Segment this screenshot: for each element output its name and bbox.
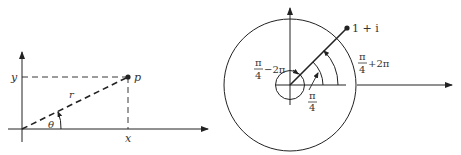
theta-label: θ xyxy=(48,119,54,130)
x-label: x xyxy=(125,132,132,145)
arg-minus-den: 4 xyxy=(255,70,261,81)
left-diagram: y x p r θ xyxy=(8,52,208,145)
theta-arc xyxy=(58,112,61,129)
point-p-label: p xyxy=(134,71,141,84)
pi-over-4-pointer xyxy=(309,73,318,90)
point-p xyxy=(125,74,130,79)
radius-label: r xyxy=(69,89,75,100)
right-diagram: 1 + i π 4 −2π π 4 π 4 +2π xyxy=(224,8,452,151)
ray-to-point xyxy=(290,28,347,85)
arg-main-den: 4 xyxy=(309,102,315,113)
arg-plus-den: 4 xyxy=(359,64,365,75)
arg-plus-suffix: +2π xyxy=(368,58,390,69)
arg-minus-suffix: −2π xyxy=(264,64,286,75)
point-1-plus-i-label: 1 + i xyxy=(352,22,379,35)
arg-plus-num: π xyxy=(359,51,366,62)
arg-main-num: π xyxy=(309,90,316,101)
arg-minus-num: π xyxy=(255,57,262,68)
radius-line-dashed xyxy=(22,77,128,129)
arc-pi-over-4-plus-2pi xyxy=(324,51,338,85)
y-label: y xyxy=(10,71,18,84)
polar-diagrams: y x p r θ 1 + i π 4 −2π π xyxy=(0,0,461,155)
point-1-plus-i xyxy=(344,25,349,30)
